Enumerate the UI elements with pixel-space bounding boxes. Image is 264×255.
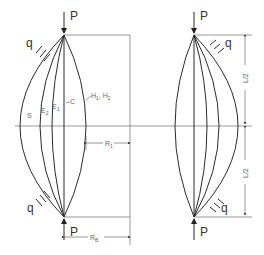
curve-label-e2: E2 — [41, 107, 49, 116]
dimension-rb-label: RB — [90, 234, 99, 243]
load-label-top: P — [70, 9, 78, 23]
q-label-top-right: q — [225, 36, 232, 50]
load-label-bottom: P — [70, 225, 78, 239]
curve-label-h: H1,H2 — [91, 92, 111, 101]
load-label-top-right: P — [200, 9, 208, 23]
buckling-diagram: P P q q S E2 E1 C H1,H2 R1 RB P P q q L/… — [0, 0, 264, 255]
dimension-upper-label: L/2 — [242, 73, 249, 83]
distributed-load-top-right — [210, 40, 224, 53]
q-label-bottom: q — [27, 201, 34, 215]
dimension-lower-label: L/2 — [242, 168, 249, 178]
q-label-bottom-right: q — [221, 201, 228, 215]
dimension-r1-label: R1 — [105, 140, 113, 149]
curve-label-s: S — [27, 112, 32, 119]
curve-label-e1: E1 — [52, 103, 60, 112]
load-label-bottom-right: P — [200, 225, 208, 239]
curve-label-c: C — [70, 98, 75, 105]
q-label-top: q — [26, 36, 33, 50]
